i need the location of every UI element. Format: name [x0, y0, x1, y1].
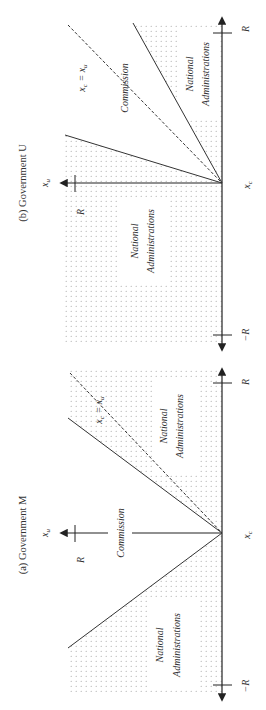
panel-b-label-diagonal: xc = xu	[76, 64, 89, 93]
panel-b-tick-label-negR-xc: −R	[240, 329, 251, 342]
panel-b-tick-label-R-xc: R	[240, 26, 251, 33]
panel-a-xu-axis-label: xu	[39, 529, 52, 538]
panel-a-label-national-upper: National	[158, 408, 169, 444]
panel-a-tick-label-negR-xc: −R	[240, 680, 251, 693]
panel-b-label-administrations-lower: Administrations	[145, 209, 156, 274]
panel-b-title: (b) Government U	[17, 144, 29, 222]
panel-a-label-administrations-lower: Administrations	[171, 613, 182, 678]
panel-b-xu-axis-label: xu	[39, 179, 52, 188]
panel-a-label-administrations-upper: Administrations	[174, 394, 185, 459]
svg-text:xu: xu	[39, 179, 52, 188]
panel-a-title: (a) Government M	[17, 495, 29, 574]
panel-b-label-box-lower	[120, 200, 168, 282]
panel-b-xc-axis-label: xc	[241, 180, 254, 189]
panel-b-label-national-upper: National	[184, 56, 195, 92]
panel-b-label-commission: Commission	[119, 63, 130, 112]
panel-b-tick-label-R-xu: R	[75, 209, 86, 216]
panel-a-government-m: (a) Government M National Administration…	[17, 369, 254, 700]
svg-text:xc: xc	[241, 530, 254, 539]
panel-b-label-administrations-upper: Administrations	[200, 42, 211, 107]
panel-b-label-national-lower: National	[129, 223, 140, 259]
panel-a-label-commission: Commission	[115, 508, 126, 557]
panel-a-tick-label-R-xu: R	[75, 557, 86, 564]
panel-b-government-u: (b) Government U National Administration…	[17, 18, 254, 350]
panel-a-xc-axis-label: xc	[241, 530, 254, 539]
svg-text:xu: xu	[39, 529, 52, 538]
panel-a-label-national-lower: National	[154, 627, 165, 663]
svg-text:xc = xu: xc = xu	[76, 64, 89, 93]
panel-a-tick-label-R-xc: R	[240, 379, 251, 386]
svg-text:xc: xc	[241, 180, 254, 189]
government-diagram: (b) Government U National Administration…	[0, 0, 266, 710]
